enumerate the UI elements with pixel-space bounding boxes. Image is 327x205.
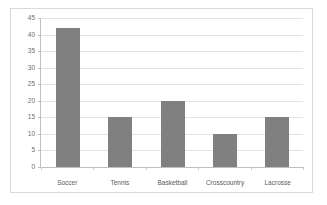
y-axis-tick-mark	[38, 101, 41, 102]
y-axis-tick-mark	[38, 84, 41, 85]
y-axis-tick-label: 30	[28, 64, 35, 71]
x-axis-label-slot: Crosscountry	[199, 171, 252, 189]
bars-group	[42, 18, 303, 167]
x-axis-tick-mark	[303, 167, 304, 170]
x-axis-label-slot: Basketball	[146, 171, 199, 189]
x-axis-label-tennis: Tennis	[110, 179, 129, 186]
y-axis-tick-mark	[38, 117, 41, 118]
x-axis-label-soccer: Soccer	[57, 179, 77, 186]
bar-lacrosse[interactable]	[265, 117, 289, 167]
x-axis-tick-mark	[41, 167, 42, 170]
y-axis-tick-mark	[38, 18, 41, 19]
x-axis-label-lacrosse: Lacrosse	[264, 179, 290, 186]
bar-slot	[42, 18, 94, 167]
x-axis-labels-group: SoccerTennisBasketballCrosscountryLacros…	[41, 171, 304, 189]
bar-basketball[interactable]	[161, 101, 185, 167]
y-axis-tick-label: 40	[28, 31, 35, 38]
x-axis-label-slot: Lacrosse	[251, 171, 304, 189]
y-axis-tick-label: 20	[28, 98, 35, 105]
y-axis-tick-mark	[38, 68, 41, 69]
x-axis-tick-mark	[93, 167, 94, 170]
bar-slot	[146, 18, 198, 167]
x-axis-label-slot: Tennis	[94, 171, 147, 189]
y-axis-tick-label: 25	[28, 81, 35, 88]
y-axis-tick-label: 5	[31, 147, 35, 154]
x-axis-label-basketball: Basketball	[157, 179, 187, 186]
x-axis-tick-mark	[146, 167, 147, 170]
y-axis-tick-mark	[38, 51, 41, 52]
plot-area: 051015202530354045	[40, 18, 303, 167]
y-axis-tick-mark	[38, 134, 41, 135]
bar-slot	[94, 18, 146, 167]
x-axis-label-crosscountry: Crosscountry	[206, 179, 244, 186]
chart-container: 051015202530354045 SoccerTennisBasketbal…	[10, 8, 313, 193]
y-axis-tick-label: 35	[28, 48, 35, 55]
bar-slot	[251, 18, 303, 167]
y-axis-tick-label: 15	[28, 114, 35, 121]
bar-crosscountry[interactable]	[213, 134, 237, 167]
y-axis-tick-label: 10	[28, 131, 35, 138]
bar-soccer[interactable]	[56, 28, 80, 167]
bar-slot	[199, 18, 251, 167]
plot-wrapper: 051015202530354045 SoccerTennisBasketbal…	[11, 9, 312, 192]
bar-tennis[interactable]	[108, 117, 132, 167]
gridline	[41, 167, 303, 168]
y-axis-tick-mark	[38, 150, 41, 151]
x-axis-tick-mark	[198, 167, 199, 170]
x-axis-tick-mark	[251, 167, 252, 170]
y-axis-tick-mark	[38, 35, 41, 36]
y-axis-tick-label: 45	[28, 15, 35, 22]
y-axis-tick-label: 0	[31, 164, 35, 171]
x-axis-label-slot: Soccer	[41, 171, 94, 189]
